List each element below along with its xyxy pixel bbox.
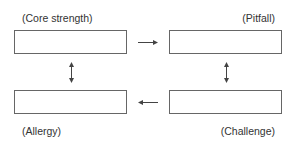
arrow-right-icon: [138, 40, 158, 45]
arrow-left-icon: [138, 100, 158, 105]
double-arrow-vertical-icon: [69, 62, 74, 83]
double-arrow-vertical-icon: [224, 62, 229, 83]
arrows-layer: [0, 0, 299, 143]
